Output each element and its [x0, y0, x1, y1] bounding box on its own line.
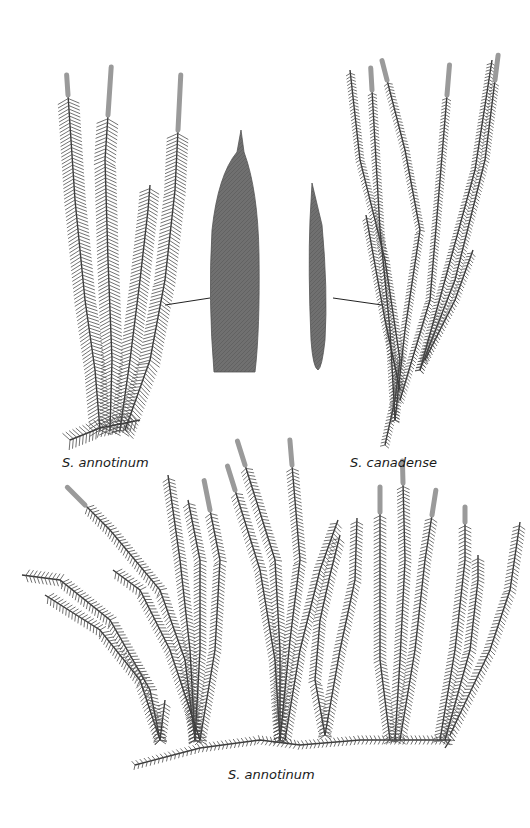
shoot: [273, 440, 306, 744]
strobilus: [67, 487, 85, 505]
shoot: [382, 61, 425, 423]
strobilus: [382, 61, 387, 80]
strobilus: [67, 75, 68, 95]
shoot: [433, 507, 471, 744]
specimen-bottom: [22, 440, 525, 770]
rhizome: [63, 413, 141, 450]
strobilus: [237, 441, 245, 465]
shoot: [415, 60, 496, 373]
leaf-annotinum-enlarged: [210, 130, 259, 372]
strobilus: [228, 466, 235, 490]
creeping-stem: [132, 735, 455, 770]
shoot: [318, 518, 363, 739]
specimen-top-right: [346, 55, 499, 448]
species-label-bottom: S. annotinum: [228, 767, 315, 782]
strobilus: [204, 481, 210, 510]
species-label-top-left: S. annotinum: [62, 455, 149, 470]
species-label-top-right: S. canadense: [350, 455, 437, 470]
pointer-line-canadense: [333, 298, 382, 305]
strobilus: [178, 75, 181, 130]
shoot: [443, 522, 525, 741]
leaf-canadense-enlarged: [309, 183, 326, 370]
strobilus: [290, 440, 292, 465]
strobilus: [371, 68, 372, 90]
botanical-figure: [0, 0, 530, 828]
strobilus: [108, 67, 111, 115]
shoot: [67, 487, 201, 744]
specimen-top-left: [58, 67, 189, 450]
strobilus: [495, 55, 498, 80]
shoot: [389, 461, 412, 743]
strobilus: [432, 490, 436, 515]
strobilus: [447, 65, 449, 95]
shoot: [393, 490, 437, 744]
shoot: [22, 570, 167, 745]
